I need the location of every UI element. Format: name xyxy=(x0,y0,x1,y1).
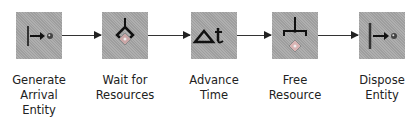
step-generate-arrival-entity xyxy=(16,12,62,59)
label-line: Time xyxy=(169,88,259,103)
step-dispose-entity xyxy=(359,12,405,59)
flow-arrow-4 xyxy=(318,35,358,36)
label-line: Arrival xyxy=(0,88,84,103)
step-label-wait-for-resources: Wait for Resources xyxy=(80,73,170,103)
step-label-dispose-entity: Dispose Entity xyxy=(337,73,417,103)
step-free-resource xyxy=(272,12,318,59)
create-entity-icon xyxy=(16,12,62,59)
dispose-entity-icon xyxy=(359,12,405,59)
delta-t-icon xyxy=(191,12,237,59)
seize-resource-icon xyxy=(102,12,148,59)
label-line: Entity xyxy=(0,103,84,118)
release-resource-icon xyxy=(272,12,318,59)
label-line: Entity xyxy=(337,88,417,103)
step-wait-for-resources xyxy=(102,12,148,59)
step-advance-time xyxy=(191,12,237,59)
step-label-free-resource: Free Resource xyxy=(250,73,340,103)
label-line: Dispose xyxy=(337,73,417,88)
step-label-advance-time: Advance Time xyxy=(169,73,259,103)
flow-arrow-2 xyxy=(148,35,190,36)
label-line: Resource xyxy=(250,88,340,103)
label-line: Free xyxy=(250,73,340,88)
flow-arrow-3 xyxy=(237,35,271,36)
label-line: Resources xyxy=(80,88,170,103)
label-line: Wait for xyxy=(80,73,170,88)
label-line: Generate xyxy=(0,73,84,88)
label-line: Advance xyxy=(169,73,259,88)
flow-arrow-1 xyxy=(62,35,101,36)
step-label-generate-arrival-entity: Generate Arrival Entity xyxy=(0,73,84,118)
